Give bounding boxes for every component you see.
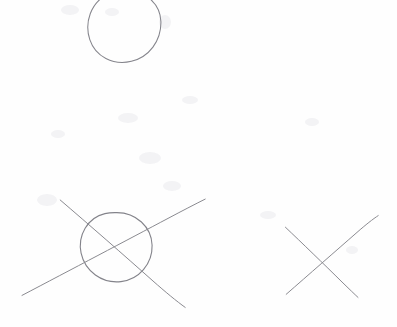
smudge-mark bbox=[163, 181, 181, 191]
figure-right-cross bbox=[285, 216, 378, 298]
circle-outline bbox=[80, 213, 152, 282]
figure-circle-with-cross bbox=[22, 199, 205, 307]
smudge-mark bbox=[305, 118, 319, 126]
smudge-mark bbox=[118, 113, 138, 123]
smudge-mark bbox=[182, 96, 198, 104]
cross-line-ascending bbox=[22, 199, 205, 295]
figure-top-circle bbox=[88, 0, 161, 62]
smudge-mark bbox=[260, 211, 276, 219]
smudge-mark bbox=[346, 246, 358, 254]
cross-line-descending bbox=[285, 227, 358, 297]
circle-outline bbox=[88, 0, 161, 62]
smudge-mark bbox=[37, 194, 57, 206]
sketch-drawing-surface bbox=[0, 0, 397, 327]
paper-smudges bbox=[37, 5, 358, 254]
cross-line-ascending bbox=[286, 216, 378, 295]
cross-line-descending bbox=[60, 200, 185, 307]
smudge-mark bbox=[105, 8, 119, 16]
smudge-mark bbox=[61, 5, 79, 15]
smudge-mark bbox=[51, 130, 65, 138]
smudge-mark bbox=[139, 152, 161, 164]
sketch-canvas bbox=[0, 0, 397, 327]
